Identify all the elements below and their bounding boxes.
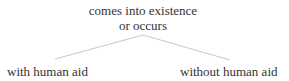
child-node-without-human-aid: without human aid [180, 64, 278, 79]
child-node-with-human-aid: with human aid [7, 64, 88, 79]
edge-left [55, 35, 143, 59]
root-line-2: or occurs [89, 18, 197, 33]
root-node: comes into existence or occurs [89, 3, 197, 33]
edge-right [143, 35, 230, 60]
root-line-1: comes into existence [89, 3, 197, 18]
